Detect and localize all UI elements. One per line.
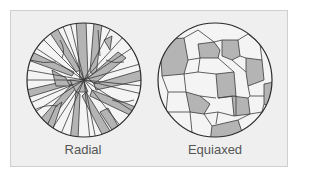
equiaxed-label: Equiaxed: [165, 142, 265, 157]
equiaxed-grain-circle: [158, 23, 274, 142]
radial-label: Radial: [33, 142, 133, 157]
radial-grain-circle: [26, 20, 142, 140]
